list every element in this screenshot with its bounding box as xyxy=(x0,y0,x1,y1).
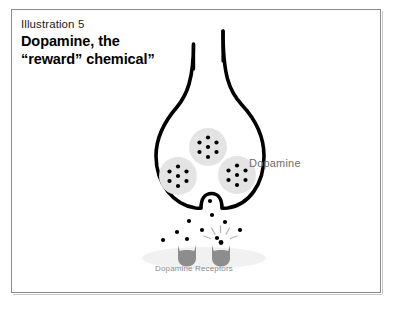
free-dopamine-molecule xyxy=(185,237,189,241)
figure-shadow-right xyxy=(382,11,383,294)
synapse-diagram-svg xyxy=(11,9,381,293)
free-dopamine-molecule xyxy=(215,236,219,240)
free-dopamine-molecule xyxy=(187,219,191,223)
receptor-activation-rays xyxy=(204,226,237,239)
figure-shadow-bottom xyxy=(13,294,382,295)
free-dopamine-molecule xyxy=(223,220,227,224)
synapse-diagram: Dopamine Dopamine Receptors xyxy=(11,9,381,293)
free-dopamine-molecule xyxy=(161,238,165,242)
free-dopamine-molecule xyxy=(208,199,212,203)
free-dopamine-molecule xyxy=(210,213,214,217)
bound-dopamine-molecule xyxy=(219,240,224,245)
synaptic-vesicle xyxy=(159,157,197,195)
free-dopamine-molecule xyxy=(238,228,242,232)
free-dopamine-molecule xyxy=(200,228,204,232)
dopamine-label: Dopamine xyxy=(249,157,301,169)
synaptic-vesicle xyxy=(189,128,227,166)
dopamine-receptors-label: Dopamine Receptors xyxy=(155,264,233,273)
free-dopamine-molecule xyxy=(175,230,179,234)
